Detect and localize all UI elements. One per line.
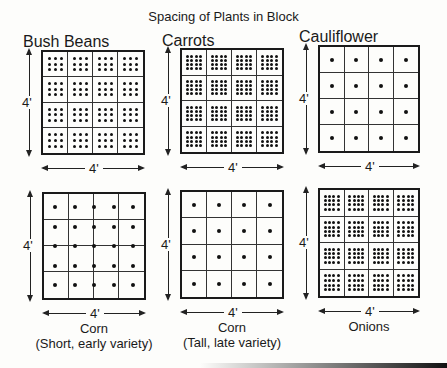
plant-dot-icon xyxy=(112,264,116,268)
plant-dot-icon xyxy=(381,208,384,211)
square-foot-cell xyxy=(257,271,282,297)
plant-dot-icon xyxy=(397,203,400,206)
height-dimension-label: 4' xyxy=(21,239,35,252)
plant-dot-icon xyxy=(324,195,327,198)
plant-dot-icon xyxy=(402,221,405,224)
plant-dot-icon xyxy=(270,106,273,109)
plant-dot-icon xyxy=(275,92,278,95)
plant-dot-icon xyxy=(135,108,138,111)
square-foot-cell xyxy=(345,243,370,270)
plant-dot-icon xyxy=(98,88,101,91)
plant-dot-icon xyxy=(217,282,221,286)
plant-dot-icon xyxy=(381,226,384,229)
plant-dot-icon xyxy=(112,225,116,229)
plant-dot-icon xyxy=(275,131,278,134)
plant-dot-icon xyxy=(266,114,269,117)
plant-dot-icon xyxy=(220,92,223,95)
plant-dot-icon xyxy=(60,88,63,91)
plant-dot-icon xyxy=(407,288,410,291)
diagram-title: Spacing of Plants in Block xyxy=(0,9,447,24)
plant-dot-icon xyxy=(249,136,252,139)
plant-dot-icon xyxy=(404,58,408,62)
plant-dot-icon xyxy=(186,136,189,139)
square-foot-cell xyxy=(118,77,143,102)
plant-dot-icon xyxy=(328,230,331,233)
plant-dot-icon xyxy=(373,284,376,287)
square-foot-cell xyxy=(182,127,207,153)
plant-dot-icon xyxy=(353,199,356,202)
square-foot-cell xyxy=(369,47,394,73)
plant-dot-icon xyxy=(357,230,360,233)
plant-dot-icon xyxy=(361,199,364,202)
plant-dot-icon xyxy=(240,136,243,139)
plant-dot-icon xyxy=(377,226,380,229)
square-foot-cell xyxy=(394,73,419,99)
plant-dot-icon xyxy=(211,118,214,121)
plant-dot-icon xyxy=(386,248,389,251)
plant-dot-icon xyxy=(79,108,82,111)
plant-dot-icon xyxy=(85,63,88,66)
square-foot-cell xyxy=(345,47,370,73)
square-foot-cell xyxy=(320,270,345,297)
plant-dot-icon xyxy=(85,88,88,91)
plant-dot-icon xyxy=(249,118,252,121)
plant-dot-icon xyxy=(324,208,327,211)
plant-dot-icon xyxy=(275,136,278,139)
plant-dot-icon xyxy=(131,205,135,209)
plant-dot-icon xyxy=(104,139,107,142)
plant-dot-icon xyxy=(236,92,239,95)
plant-dot-icon xyxy=(104,63,107,66)
plant-dot-icon xyxy=(330,84,334,88)
plant-dot-icon xyxy=(373,208,376,211)
plant-dot-icon xyxy=(73,225,77,229)
plant-dot-icon xyxy=(123,63,126,66)
plant-dot-icon xyxy=(361,279,364,282)
square-foot-cell xyxy=(320,190,345,217)
plant-dot-icon xyxy=(236,136,239,139)
plant-dot-icon xyxy=(373,288,376,291)
plant-dot-icon xyxy=(98,63,101,66)
square-foot-cell xyxy=(257,76,282,102)
plant-dot-icon xyxy=(270,131,273,134)
plant-dot-icon xyxy=(217,203,221,207)
plant-dot-icon xyxy=(129,63,132,66)
plant-dot-icon xyxy=(397,288,400,291)
plant-dot-icon xyxy=(353,226,356,229)
square-foot-cell xyxy=(394,125,419,151)
plant-dot-icon xyxy=(261,131,264,134)
plant-dot-icon xyxy=(268,203,272,207)
plant-dot-icon xyxy=(242,203,246,207)
plant-dot-icon xyxy=(354,110,358,114)
plant-dot-icon xyxy=(240,114,243,117)
plant-dot-icon xyxy=(266,144,269,147)
plant-dot-icon xyxy=(275,118,278,121)
plant-dot-icon xyxy=(79,119,82,122)
plant-dot-icon xyxy=(53,264,57,268)
plant-dot-icon xyxy=(215,118,218,121)
plant-dot-icon xyxy=(110,113,113,116)
plant-dot-icon xyxy=(190,80,193,83)
plant-dot-icon xyxy=(220,88,223,91)
plant-dot-icon xyxy=(73,139,76,142)
plant-dot-icon xyxy=(324,261,327,264)
plant-dot-icon xyxy=(266,92,269,95)
plant-dot-icon xyxy=(199,67,202,70)
plant-dot-icon xyxy=(242,282,246,286)
plant-dot-icon xyxy=(357,221,360,224)
plant-dot-icon xyxy=(379,110,383,114)
plant-dot-icon xyxy=(211,110,214,113)
plant-dot-icon xyxy=(353,261,356,264)
plant-dot-icon xyxy=(249,110,252,113)
plant-dot-icon xyxy=(324,288,327,291)
plant-dot-icon xyxy=(357,288,360,291)
plant-dot-icon xyxy=(199,131,202,134)
square-foot-cell xyxy=(345,125,370,151)
plant-dot-icon xyxy=(85,119,88,122)
plant-dot-icon xyxy=(328,288,331,291)
plant-dot-icon xyxy=(190,136,193,139)
plant-dot-icon xyxy=(220,140,223,143)
plant-dot-icon xyxy=(236,55,239,58)
plant-dot-icon xyxy=(215,114,218,117)
plant-dot-icon xyxy=(348,274,351,277)
plant-dot-icon xyxy=(328,274,331,277)
